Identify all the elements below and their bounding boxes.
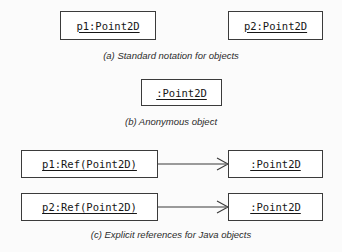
object-box-label: p1:Point2D [76, 20, 139, 32]
object-box-label: :Point2D [156, 87, 207, 99]
object-box-target-1: :Point2D [228, 150, 323, 178]
object-box-anonymous: :Point2D [141, 79, 222, 106]
uml-object-diagram: p1:Point2D p2:Point2D (a) Standard notat… [0, 0, 342, 252]
object-box-p1-ref: p1:Ref(Point2D) [21, 150, 158, 178]
object-box-target-2: :Point2D [228, 193, 323, 221]
object-box-label: :Point2D [250, 158, 301, 170]
object-box-label: p2:Point2D [244, 20, 307, 32]
object-box-p2-ref: p2:Ref(Point2D) [21, 193, 158, 221]
reference-arrow-icon [158, 199, 230, 215]
caption-b: (b) Anonymous object [0, 116, 342, 127]
object-box-label: :Point2D [250, 201, 301, 213]
object-box-label: p2:Ref(Point2D) [42, 201, 137, 213]
object-box-p1-standard: p1:Point2D [60, 11, 156, 40]
caption-a: (a) Standard notation for objects [0, 50, 342, 61]
object-box-p2-standard: p2:Point2D [228, 11, 323, 40]
reference-arrow-icon [158, 156, 230, 172]
object-box-label: p1:Ref(Point2D) [42, 158, 137, 170]
caption-c: (c) Explicit references for Java objects [0, 229, 342, 240]
